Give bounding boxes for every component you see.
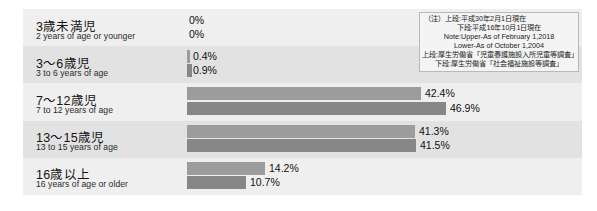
row-label-en: 2 years of age or younger [36,31,135,41]
row-label-group: 7～12歳児 7 to 12 years of age [36,83,186,121]
bar-lower-value: 10.7% [250,176,280,189]
row-label-group: 16歳以上 16 years of age or older [36,158,186,195]
bar-lower-value: 0.9% [193,64,217,77]
bar-lower-value: 41.5% [420,139,450,152]
bar-lower-value: 0% [189,28,204,41]
age-distribution-bar-chart: 3歳未満児 2 years of age or younger 0% 0% 3～… [0,0,597,211]
chart-note-box: （注）上段:平成30年2月1日現在 下段:平成16年10月1日現在 Note:U… [419,12,579,72]
row-label-group: 3歳未満児 2 years of age or younger [36,9,186,46]
row-label-en: 16 years of age or older [36,179,128,189]
row-label-en: 13 to 15 years of age [36,142,118,152]
bar-upper [187,50,190,63]
row-bar-group: 14.2% 10.7% [187,158,582,195]
bar-lower-value: 46.9% [450,102,480,115]
row-bar-group: 41.3% 41.5% [187,121,582,158]
bar-upper-value: 42.4% [425,87,455,100]
bar-lower [187,102,446,115]
bar-lower [187,64,192,77]
row-bar-group: 42.4% 46.9% [187,83,582,121]
row-label-en: 3 to 6 years of age [36,68,108,78]
bar-lower [187,176,246,189]
bar-upper-value: 14.2% [269,162,299,175]
bar-upper-value: 0% [189,14,204,27]
bar-upper-value: 41.3% [419,125,449,138]
row-label-group: 13～15歳児 13 to 15 years of age [36,121,186,158]
bar-upper [187,162,265,175]
chart-row-16-years-or-older: 16歳以上 16 years of age or older 14.2% 10.… [23,158,582,195]
bar-upper [187,87,421,100]
row-label-group: 3～6歳児 3 to 6 years of age [36,46,186,83]
bar-lower [187,139,416,152]
bar-upper [187,125,415,138]
chart-row-7-to-12-years: 7～12歳児 7 to 12 years of age 42.4% 46.9% [23,83,582,121]
bar-upper-value: 0.4% [193,50,217,63]
note-line-6: 下段:厚生労働省「社会福祉施設等調査」 [422,60,576,69]
row-label-en: 7 to 12 years of age [36,105,113,115]
chart-row-13-to-15-years: 13～15歳児 13 to 15 years of age 41.3% 41.5… [23,121,582,158]
